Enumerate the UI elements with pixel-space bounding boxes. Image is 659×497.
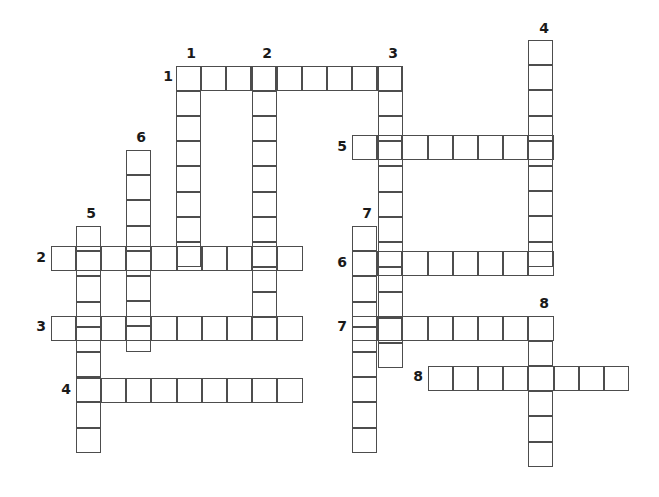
- crossword-cell[interactable]: [76, 352, 101, 377]
- crossword-cell[interactable]: [528, 391, 553, 416]
- crossword-cell[interactable]: [252, 378, 277, 403]
- crossword-cell[interactable]: [76, 226, 101, 251]
- crossword-cell[interactable]: [227, 378, 252, 403]
- crossword-cell[interactable]: [252, 66, 277, 91]
- crossword-cell[interactable]: [277, 316, 302, 341]
- crossword-cell[interactable]: [378, 116, 403, 141]
- crossword-cell[interactable]: [402, 316, 427, 341]
- crossword-cell[interactable]: [378, 343, 403, 368]
- crossword-cell[interactable]: [528, 216, 553, 241]
- crossword-cell[interactable]: [453, 366, 478, 391]
- crossword-cell[interactable]: [378, 217, 403, 242]
- crossword-cell[interactable]: [428, 135, 453, 160]
- crossword-cell[interactable]: [126, 301, 151, 326]
- crossword-cell[interactable]: [378, 192, 403, 217]
- crossword-cell[interactable]: [126, 276, 151, 301]
- crossword-cell[interactable]: [176, 141, 201, 166]
- crossword-cell[interactable]: [604, 366, 629, 391]
- crossword-cell[interactable]: [176, 217, 201, 242]
- crossword-cell[interactable]: [202, 246, 227, 271]
- crossword-cell[interactable]: [528, 316, 553, 341]
- crossword-cell[interactable]: [176, 192, 201, 217]
- crossword-cell[interactable]: [378, 242, 403, 267]
- crossword-cell[interactable]: [503, 366, 528, 391]
- crossword-cell[interactable]: [126, 150, 151, 175]
- crossword-cell[interactable]: [528, 116, 553, 141]
- crossword-cell[interactable]: [126, 378, 151, 403]
- crossword-cell[interactable]: [352, 402, 377, 427]
- crossword-cell[interactable]: [378, 318, 403, 343]
- crossword-cell[interactable]: [528, 366, 553, 391]
- crossword-cell[interactable]: [428, 251, 453, 276]
- crossword-cell[interactable]: [453, 251, 478, 276]
- crossword-cell[interactable]: [352, 226, 377, 251]
- crossword-cell[interactable]: [352, 327, 377, 352]
- crossword-cell[interactable]: [252, 217, 277, 242]
- crossword-cell[interactable]: [428, 316, 453, 341]
- crossword-cell[interactable]: [252, 116, 277, 141]
- crossword-cell[interactable]: [101, 378, 126, 403]
- crossword-cell[interactable]: [126, 175, 151, 200]
- crossword-cell[interactable]: [554, 366, 579, 391]
- crossword-cell[interactable]: [252, 192, 277, 217]
- crossword-cell[interactable]: [252, 292, 277, 317]
- crossword-cell[interactable]: [352, 135, 377, 160]
- crossword-cell[interactable]: [76, 377, 101, 402]
- crossword-cell[interactable]: [252, 267, 277, 292]
- crossword-cell[interactable]: [528, 416, 553, 441]
- crossword-cell[interactable]: [428, 366, 453, 391]
- crossword-cell[interactable]: [51, 316, 76, 341]
- crossword-cell[interactable]: [101, 246, 126, 271]
- crossword-cell[interactable]: [76, 402, 101, 427]
- crossword-cell[interactable]: [478, 251, 503, 276]
- crossword-cell[interactable]: [327, 66, 352, 91]
- crossword-cell[interactable]: [453, 316, 478, 341]
- crossword-cell[interactable]: [503, 316, 528, 341]
- crossword-cell[interactable]: [76, 327, 101, 352]
- crossword-cell[interactable]: [352, 377, 377, 402]
- crossword-cell[interactable]: [528, 90, 553, 115]
- crossword-cell[interactable]: [352, 428, 377, 453]
- crossword-cell[interactable]: [579, 366, 604, 391]
- crossword-cell[interactable]: [176, 116, 201, 141]
- crossword-cell[interactable]: [126, 251, 151, 276]
- crossword-cell[interactable]: [528, 65, 553, 90]
- crossword-cell[interactable]: [378, 292, 403, 317]
- crossword-cell[interactable]: [252, 242, 277, 267]
- crossword-cell[interactable]: [378, 66, 403, 91]
- crossword-cell[interactable]: [402, 135, 427, 160]
- crossword-cell[interactable]: [302, 66, 327, 91]
- crossword-cell[interactable]: [478, 135, 503, 160]
- crossword-cell[interactable]: [378, 91, 403, 116]
- crossword-cell[interactable]: [176, 166, 201, 191]
- crossword-cell[interactable]: [76, 276, 101, 301]
- crossword-cell[interactable]: [378, 166, 403, 191]
- crossword-cell[interactable]: [151, 246, 176, 271]
- crossword-cell[interactable]: [352, 66, 377, 91]
- crossword-cell[interactable]: [51, 246, 76, 271]
- crossword-cell[interactable]: [402, 251, 427, 276]
- crossword-cell[interactable]: [453, 135, 478, 160]
- crossword-cell[interactable]: [352, 251, 377, 276]
- crossword-cell[interactable]: [176, 242, 201, 267]
- crossword-cell[interactable]: [478, 366, 503, 391]
- crossword-cell[interactable]: [227, 246, 252, 271]
- crossword-cell[interactable]: [252, 166, 277, 191]
- crossword-cell[interactable]: [478, 316, 503, 341]
- crossword-cell[interactable]: [277, 378, 302, 403]
- crossword-cell[interactable]: [528, 442, 553, 467]
- crossword-cell[interactable]: [503, 135, 528, 160]
- crossword-cell[interactable]: [176, 66, 201, 91]
- crossword-cell[interactable]: [76, 251, 101, 276]
- crossword-cell[interactable]: [252, 316, 277, 341]
- crossword-cell[interactable]: [151, 378, 176, 403]
- crossword-cell[interactable]: [177, 316, 202, 341]
- crossword-cell[interactable]: [76, 428, 101, 453]
- crossword-cell[interactable]: [528, 166, 553, 191]
- crossword-cell[interactable]: [201, 66, 226, 91]
- crossword-cell[interactable]: [528, 40, 553, 65]
- crossword-cell[interactable]: [352, 276, 377, 301]
- crossword-cell[interactable]: [101, 316, 126, 341]
- crossword-cell[interactable]: [378, 267, 403, 292]
- crossword-cell[interactable]: [528, 191, 553, 216]
